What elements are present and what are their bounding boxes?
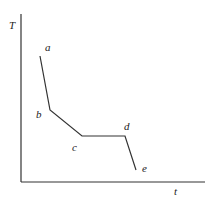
- y-axis-label: T: [9, 19, 16, 31]
- x-axis-label: t: [174, 185, 178, 197]
- temperature-curve: [40, 56, 136, 170]
- cooling-curve-diagram: T t a b c d e: [0, 0, 213, 203]
- point-label-d: d: [124, 120, 130, 132]
- point-label-a: a: [45, 41, 51, 53]
- point-label-c: c: [72, 141, 77, 153]
- point-label-e: e: [142, 162, 147, 174]
- point-label-b: b: [36, 108, 42, 120]
